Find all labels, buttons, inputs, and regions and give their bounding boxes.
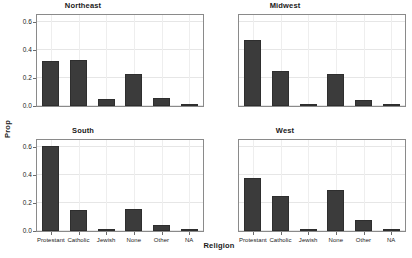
- x-tick-mark: [336, 232, 337, 235]
- x-tick-mark: [253, 232, 254, 235]
- gridline-vertical: [189, 15, 190, 106]
- panel-west: West: [238, 126, 406, 232]
- y-tick-label: 0.2: [14, 200, 32, 207]
- plot-area: [36, 14, 204, 107]
- bar-protestant: [244, 40, 261, 106]
- gridline-horizontal: [37, 77, 203, 78]
- y-tick-label: 0.6: [14, 19, 32, 26]
- x-tick-mark: [106, 232, 107, 235]
- bar-jewish: [300, 229, 317, 231]
- bar-catholic: [272, 71, 289, 106]
- gridline-horizontal: [37, 202, 203, 203]
- gridline-horizontal: [37, 21, 203, 22]
- y-tick-label: 0.4: [14, 172, 32, 179]
- bar-other: [153, 98, 170, 106]
- gridline-vertical: [106, 15, 107, 106]
- x-tick-mark: [162, 232, 163, 235]
- bar-jewish: [98, 99, 115, 106]
- bar-catholic: [272, 196, 289, 231]
- panel-northeast: Northeast: [36, 1, 204, 107]
- gridline-horizontal: [239, 230, 405, 231]
- panel-title: Northeast: [36, 1, 130, 10]
- y-tick-mark: [33, 175, 36, 176]
- y-tick-mark: [33, 231, 36, 232]
- x-tick-mark: [391, 232, 392, 235]
- panel-title: South: [36, 126, 130, 135]
- gridline-vertical: [391, 140, 392, 231]
- gridline-horizontal: [239, 105, 405, 106]
- gridline-vertical: [162, 15, 163, 106]
- gridline-horizontal: [239, 146, 405, 147]
- panel-title: Midwest: [238, 1, 332, 10]
- y-tick-mark: [33, 203, 36, 204]
- y-tick-mark: [33, 78, 36, 79]
- gridline-vertical: [162, 140, 163, 231]
- gridline-horizontal: [239, 49, 405, 50]
- bar-jewish: [300, 104, 317, 106]
- x-tick-mark: [364, 232, 365, 235]
- gridline-vertical: [106, 140, 107, 231]
- bar-other: [153, 225, 170, 231]
- panel-midwest: Midwest: [238, 1, 406, 107]
- y-tick-label: 0.6: [14, 144, 32, 151]
- gridline-horizontal: [37, 230, 203, 231]
- panel-title: West: [238, 126, 332, 135]
- x-tick-mark: [79, 232, 80, 235]
- x-tick-mark: [189, 232, 190, 235]
- gridline-horizontal: [239, 202, 405, 203]
- x-tick-mark: [308, 232, 309, 235]
- bar-na: [383, 104, 400, 106]
- gridline-vertical: [308, 15, 309, 106]
- gridline-horizontal: [239, 77, 405, 78]
- bar-none: [327, 190, 344, 231]
- facet-bar-chart: Prop Religion NortheastMidwestSouthWest …: [0, 0, 412, 258]
- panel-south: South: [36, 126, 204, 232]
- bar-other: [355, 100, 372, 106]
- plot-area: [238, 14, 406, 107]
- gridline-horizontal: [37, 174, 203, 175]
- bar-other: [355, 220, 372, 231]
- plot-area: [238, 139, 406, 232]
- y-tick-mark: [33, 106, 36, 107]
- gridline-vertical: [308, 140, 309, 231]
- bar-jewish: [98, 229, 115, 231]
- x-tick-mark: [134, 232, 135, 235]
- bar-protestant: [42, 146, 59, 231]
- y-tick-label: 0.4: [14, 47, 32, 54]
- bar-none: [125, 74, 142, 106]
- y-tick-label: 0.0: [14, 103, 32, 110]
- x-tick-mark: [281, 232, 282, 235]
- gridline-vertical: [364, 15, 365, 106]
- gridline-vertical: [364, 140, 365, 231]
- x-tick-label: NA: [366, 237, 412, 243]
- y-tick-mark: [33, 50, 36, 51]
- y-tick-mark: [33, 22, 36, 23]
- y-tick-label: 0.2: [14, 75, 32, 82]
- y-tick-label: 0.0: [14, 228, 32, 235]
- bar-protestant: [42, 61, 59, 106]
- gridline-horizontal: [239, 174, 405, 175]
- bar-na: [181, 229, 198, 231]
- gridline-horizontal: [37, 146, 203, 147]
- x-tick-mark: [51, 232, 52, 235]
- x-tick-label: NA: [164, 237, 214, 243]
- bar-none: [327, 74, 344, 106]
- bar-none: [125, 209, 142, 231]
- y-tick-mark: [33, 147, 36, 148]
- gridline-vertical: [189, 140, 190, 231]
- bar-na: [383, 229, 400, 231]
- bar-catholic: [70, 210, 87, 231]
- gridline-horizontal: [37, 49, 203, 50]
- bar-catholic: [70, 60, 87, 106]
- bar-na: [181, 104, 198, 106]
- bar-protestant: [244, 178, 261, 231]
- y-axis-title: Prop: [0, 0, 14, 258]
- plot-area: [36, 139, 204, 232]
- gridline-horizontal: [239, 21, 405, 22]
- gridline-horizontal: [37, 105, 203, 106]
- gridline-vertical: [391, 15, 392, 106]
